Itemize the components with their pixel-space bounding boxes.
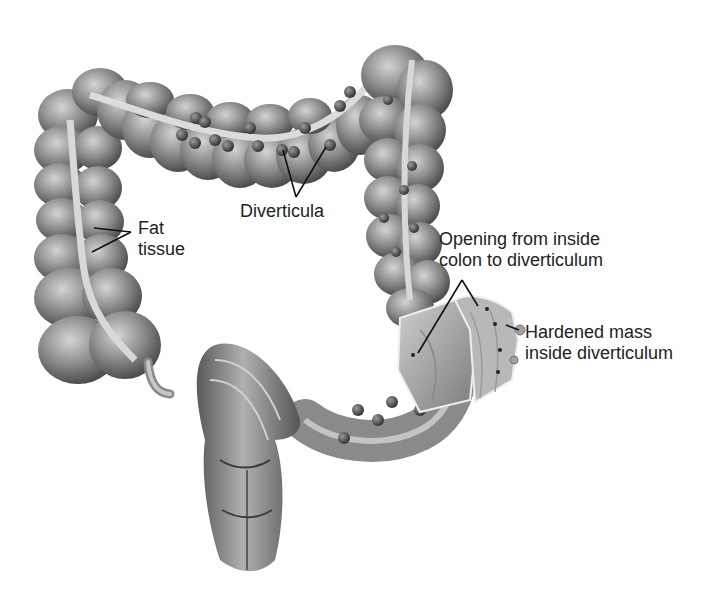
label-line: tissue xyxy=(138,239,185,260)
label-line: Diverticula xyxy=(240,201,324,222)
label-line: colon to diverticulum xyxy=(439,250,603,271)
label-fat-tissue: Fat tissue xyxy=(138,218,185,260)
label-line: Fat xyxy=(138,218,185,239)
label-line: Hardened mass xyxy=(525,322,673,343)
label-hardened-mass: Hardened mass inside diverticulum xyxy=(525,322,673,364)
cutaway-section xyxy=(398,296,525,412)
descending-colon xyxy=(359,45,453,328)
colon-illustration xyxy=(0,0,722,589)
label-line: inside diverticulum xyxy=(525,343,673,364)
label-opening: Opening from inside colon to diverticulu… xyxy=(439,229,603,271)
label-diverticula: Diverticula xyxy=(240,201,324,222)
rectum xyxy=(197,344,300,572)
sigmoid-colon xyxy=(305,296,525,444)
label-line: Opening from inside xyxy=(439,229,603,250)
colon-diagram: Fat tissue Diverticula Opening from insi… xyxy=(0,0,722,589)
transverse-colon xyxy=(72,68,384,188)
